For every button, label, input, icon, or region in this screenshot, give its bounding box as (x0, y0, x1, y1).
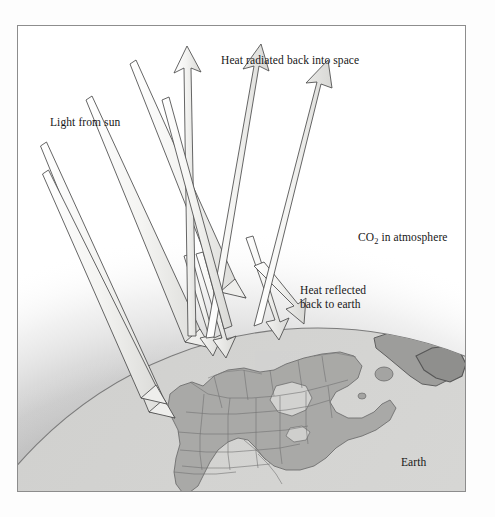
label-light-from-sun: Light from sun (50, 116, 120, 130)
co2-prefix: CO (358, 231, 374, 243)
co2-suffix: in atmosphere (378, 231, 447, 243)
label-heat-radiated-back-into-space: Heat radiated back into space (221, 54, 359, 68)
illustration-frame: Heat radiated back into space Light from… (17, 25, 466, 492)
greenhouse-effect-scene (18, 26, 465, 491)
label-earth: Earth (401, 456, 426, 470)
heat-reflected-line-2: back to earth (300, 298, 361, 310)
label-co2-in-atmosphere: CO2 in atmosphere (358, 231, 448, 246)
figure-root: Heat radiated back into space Light from… (0, 0, 495, 517)
label-heat-reflected-back-to-earth: Heat reflectedback to earth (300, 284, 366, 311)
heat-reflected-line-1: Heat reflected (300, 284, 366, 296)
